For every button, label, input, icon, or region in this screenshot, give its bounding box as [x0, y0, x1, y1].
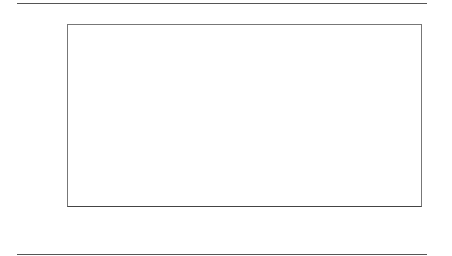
plot-area [67, 24, 422, 207]
top-rule [17, 3, 427, 4]
bottom-rule [17, 254, 427, 255]
